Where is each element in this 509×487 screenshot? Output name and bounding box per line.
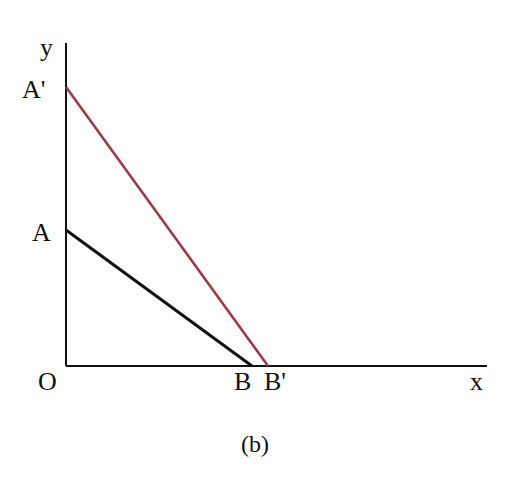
line-a-b xyxy=(66,230,252,366)
figure-caption: (b) xyxy=(241,431,269,457)
origin-label: O xyxy=(38,367,57,396)
x-axis-label: x xyxy=(470,367,483,396)
point-label-b: B xyxy=(234,367,251,396)
diagram-canvas: y A' A O B B' x (b) xyxy=(0,0,509,487)
y-axis-label: y xyxy=(40,33,53,62)
point-label-a-prime: A' xyxy=(22,75,45,104)
line-a-prime-b-prime xyxy=(66,87,268,366)
point-label-b-prime: B' xyxy=(264,367,286,396)
point-label-a: A xyxy=(32,218,51,247)
